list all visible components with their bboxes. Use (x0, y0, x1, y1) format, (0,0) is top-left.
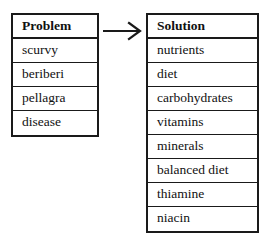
table-row: scurvy (13, 39, 97, 63)
problem-table-header: Problem (13, 15, 97, 39)
table-row: disease (13, 111, 97, 135)
table-row: nutrients (148, 39, 257, 63)
table-row: carbohydrates (148, 87, 257, 111)
table-row: niacin (148, 207, 257, 231)
arrow-right-icon (99, 19, 147, 43)
table-row: minerals (148, 135, 257, 159)
problem-table: Problem scurvy beriberi pellagra disease (11, 13, 99, 137)
table-row: vitamins (148, 111, 257, 135)
table-row: thiamine (148, 183, 257, 207)
table-row: beriberi (13, 63, 97, 87)
solution-table-header: Solution (148, 15, 257, 39)
solution-table: Solution nutrients diet carbohydrates vi… (146, 13, 259, 233)
table-row: pellagra (13, 87, 97, 111)
table-row: balanced diet (148, 159, 257, 183)
problem-solution-diagram: Problem scurvy beriberi pellagra disease… (0, 0, 274, 240)
table-row: diet (148, 63, 257, 87)
